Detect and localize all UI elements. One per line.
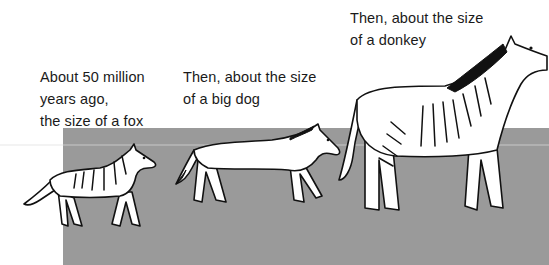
dog-sized-horse-illustration [172,120,352,230]
caption-fox-size: About 50 million years ago, the size of … [40,66,145,132]
donkey-sized-horse-illustration [335,30,549,220]
caption-big-dog-size: Then, about the size of a big dog [183,66,316,110]
fox-sized-horse-illustration [20,140,170,240]
